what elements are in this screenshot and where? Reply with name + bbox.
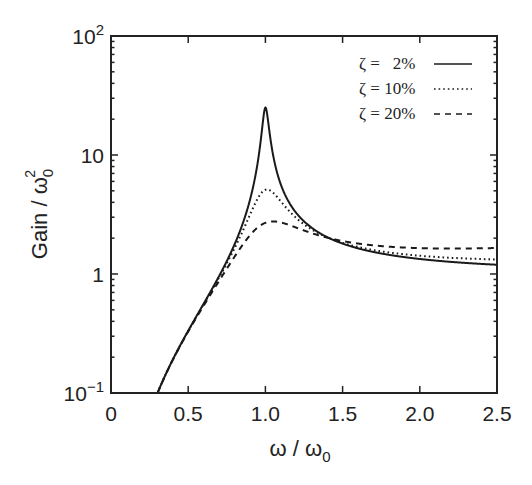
legend-label: ζ = 20% (359, 104, 415, 123)
legend-item-zeta-2: ζ = 2% (359, 54, 472, 73)
y-tick-labels: 10−1110102 (64, 21, 104, 405)
gain-chart: 00.51.01.52.02.5 10−1110102 ω / ω0 Gain … (0, 0, 532, 485)
x-tick-label: 0 (105, 402, 117, 425)
x-tick-label: 2.0 (405, 402, 434, 425)
y-tick-label: 1 (92, 263, 104, 286)
curve-dashed (158, 221, 497, 392)
y-tick-label: 102 (72, 21, 104, 48)
legend-label: ζ = 10% (359, 79, 415, 98)
x-tick-label: 1.0 (251, 402, 280, 425)
y-tick-label: 10 (81, 144, 104, 167)
curve-solid (158, 108, 497, 393)
curve-dotted (158, 190, 497, 393)
legend-item-zeta-10: ζ = 10% (359, 79, 472, 98)
x-tick-label: 2.5 (482, 402, 511, 425)
legend-item-zeta-20: ζ = 20% (359, 104, 472, 123)
x-tick-label: 1.5 (328, 402, 357, 425)
x-axis-label: ω / ω0 (269, 436, 330, 465)
y-tick-label: 10−1 (64, 378, 104, 405)
legend-label: ζ = 2% (359, 54, 415, 73)
x-tick-label: 0.5 (174, 402, 203, 425)
legend: ζ = 2% ζ = 10% ζ = 20% (359, 54, 472, 123)
plot-curves (158, 108, 497, 393)
x-tick-labels: 00.51.01.52.02.5 (105, 402, 511, 425)
y-axis-label: Gain / ω02 (22, 169, 56, 259)
